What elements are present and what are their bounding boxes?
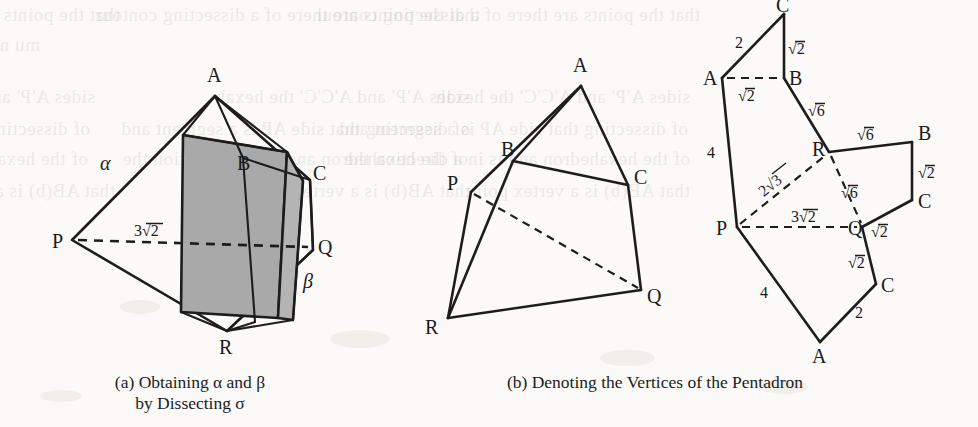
fig-b-edge-A-P (471, 86, 581, 192)
net-edgelabel-P-R-2sqrt3: 2√3 (755, 163, 786, 200)
fig-a-label-alpha: α (100, 152, 111, 174)
net-edgelabel-B-C-sqrt2-right: √2 (918, 164, 935, 181)
fig-b-edge-A-B (513, 86, 581, 161)
fig-b-label-Q: Q (647, 285, 662, 307)
net-edgelabel-P-A-4: 4 (760, 284, 768, 301)
net-edgelabel-R-Q-sqrt6: √6 (841, 184, 858, 201)
net-label-C-top: C (776, 0, 789, 16)
fig-a-label-beta: β (302, 270, 313, 293)
net-edgelabel-C-Q-sqrt2: √2 (871, 223, 888, 240)
figure-b-caption-line1: (b) Denoting the Vertices of the Pentadr… (440, 372, 870, 393)
net-edgelabel-C-B-sqrt2-text: √2 (788, 40, 805, 57)
fig-b-edge-R-Q (448, 290, 641, 318)
figure-b-caption: (b) Denoting the Vertices of the Pentadr… (440, 372, 870, 393)
net-edge-Abot-Clow (820, 284, 876, 342)
fig-b-edge-P-R (448, 192, 471, 318)
figure-a-caption-line1: (a) Obtaining α and β (55, 372, 325, 393)
net-label-Q: Q (848, 217, 863, 239)
net-edge-P-Abot (737, 227, 820, 342)
fig-a-edgelabel-3sqrt2: 3√2 (134, 222, 163, 239)
fig-a-edge-c-to-q (310, 180, 313, 250)
net-edgelabel-A-B-sqrt2: √2 (738, 87, 755, 104)
figure-page: that the points are there of a dissectin… (0, 0, 978, 427)
fig-b-label-C: C (634, 166, 647, 188)
fig-b-hidden-edge-P-Q (474, 194, 638, 288)
fig-a-label-Q: Q (318, 236, 333, 258)
fig-a-label-A: A (207, 64, 222, 86)
net-label-C-low: C (881, 274, 894, 296)
net-edgelabel-R-B-sqrt6-text: √6 (857, 126, 874, 143)
net-label-B-top: B (789, 67, 802, 89)
net-label-C-right: C (918, 190, 931, 212)
net-label-B-right: B (918, 122, 931, 144)
fig-a-edgelabel-3sqrt2-text: 3√2 (134, 222, 159, 239)
fig-b-label-P: P (447, 172, 458, 194)
fig-a-label-P: P (52, 230, 63, 252)
fig-b-label-A: A (573, 54, 588, 76)
fig-b-edge-B-C (513, 161, 628, 185)
net-edgelabel-B-R-sqrt6: √6 (808, 102, 825, 119)
net-edgelabel-R-Q-sqrt6-text: √6 (841, 184, 858, 201)
net-edgelabel-Q-C-sqrt2-low-text: √2 (848, 254, 865, 271)
net-edgelabel-A-B-sqrt2-text: √2 (738, 87, 755, 104)
net-edgelabel-A-P-4: 4 (707, 144, 715, 161)
net-label-A-bot: A (812, 345, 827, 367)
figure-a-caption-line2: by Dissecting σ (55, 393, 325, 414)
fig-a-label-R: R (219, 336, 233, 358)
fig-b-edge-C-Q (628, 185, 641, 290)
net-edge-A-P (722, 78, 737, 227)
net-label-A-left: A (703, 67, 718, 89)
net-edgelabel-P-R-2sqrt3-text: 2√3 (755, 171, 785, 200)
net-edgelabel-A-C-2-bot: 2 (855, 304, 863, 321)
fig-a-label-B: B (237, 152, 250, 174)
fig-a-label-C: C (313, 162, 326, 184)
net-label-P: P (716, 217, 727, 239)
net-edgelabel-A-C-2: 2 (735, 34, 743, 51)
net-edgelabel-P-Q-3sqrt2: 3√2 (791, 208, 818, 225)
net-edgelabel-C-B-sqrt2: √2 (788, 40, 805, 57)
fig-b-label-R: R (425, 316, 439, 338)
fig-a-shaded-face-main (181, 135, 287, 318)
figure-b-solid-group: A B C P Q R (425, 54, 662, 338)
net-edge-A-C (722, 14, 784, 78)
fig-b-label-B: B (501, 138, 514, 160)
net-label-R: R (812, 138, 826, 160)
net-edgelabel-R-B-sqrt6: √6 (857, 126, 874, 143)
figure-a-svg: A B C P Q R α β 3√2 (0, 0, 978, 427)
net-edge-R-Bright (829, 142, 912, 152)
net-edgelabel-C-Q-sqrt2-text: √2 (871, 223, 888, 240)
net-edgelabel-P-Q-3sqrt2-text: 3√2 (791, 208, 816, 225)
figure-a-group: A B C P Q R α β 3√2 (52, 64, 333, 358)
fig-b-edge-A-C (581, 86, 628, 185)
figure-a-caption: (a) Obtaining α and β by Dissecting σ (55, 372, 325, 415)
fig-a-ridge-a-to-slab-left (183, 96, 215, 135)
net-edgelabel-Q-C-sqrt2-low: √2 (848, 254, 865, 271)
net-edgelabel-B-C-sqrt2-right-text: √2 (918, 164, 935, 181)
figure-b-net-group: C A B R B C P Q C A 2 √2 √2 √6 (703, 0, 935, 367)
net-edgelabel-B-R-sqrt6-text: √6 (808, 102, 825, 119)
